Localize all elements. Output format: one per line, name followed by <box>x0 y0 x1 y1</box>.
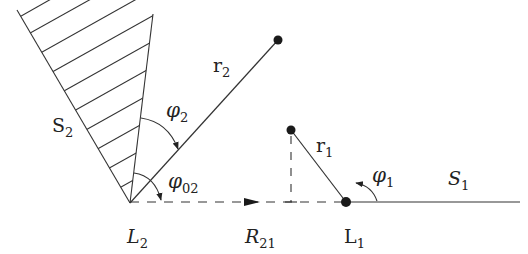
label-phi1: φ1 <box>372 163 394 190</box>
label-s2: S2 <box>52 114 73 140</box>
label-s1: S1 <box>448 167 469 193</box>
label-R21: R21 <box>244 225 276 251</box>
point-r1-end <box>287 126 296 135</box>
label-L2: L2 <box>126 225 148 251</box>
geometry-diagram: S2 r2 φ2 φ02 r1 φ1 S1 L2 R21 L1 <box>0 0 528 254</box>
arc-phi02 <box>134 173 161 200</box>
point-L1 <box>341 197 351 207</box>
label-r2: r2 <box>213 54 230 80</box>
label-phi02: φ02 <box>168 169 199 196</box>
label-L1: L1 <box>344 225 365 251</box>
point-r2-end <box>274 36 283 45</box>
wedge-s2 <box>0 0 250 250</box>
diagram-canvas: S2 r2 φ2 φ02 r1 φ1 S1 L2 R21 L1 <box>0 0 528 254</box>
label-phi2: φ2 <box>166 98 188 125</box>
arc-phi2 <box>141 118 178 149</box>
label-r1: r1 <box>316 134 333 160</box>
r21-arrow-icon <box>244 198 260 206</box>
hatch-lines <box>0 0 250 250</box>
